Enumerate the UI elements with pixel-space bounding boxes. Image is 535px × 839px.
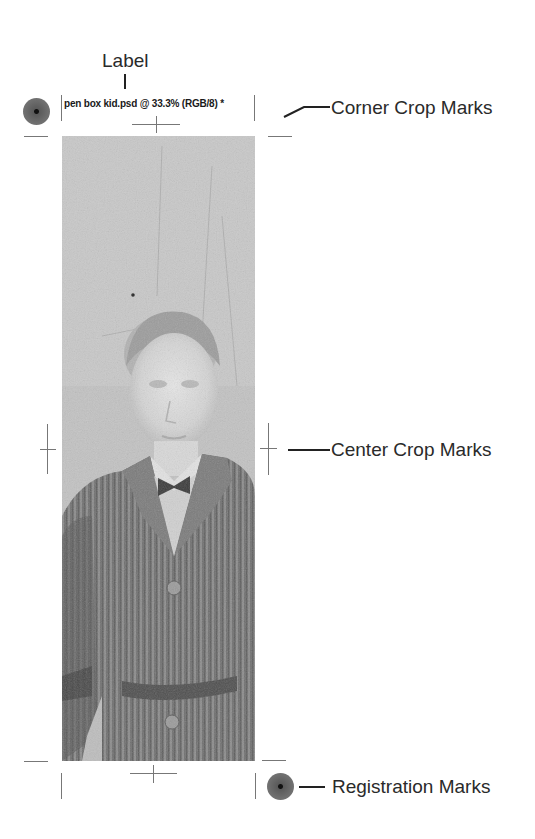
center-crop-mark-bottom-vertical bbox=[153, 765, 154, 783]
center-crop-mark-left-horizontal bbox=[40, 449, 56, 450]
registration-callout-text: Registration Marks bbox=[332, 777, 490, 796]
center-crop-callout-text: Center Crop Marks bbox=[331, 440, 492, 459]
label-callout-text: Label bbox=[102, 51, 149, 70]
registration-mark-bottom-right bbox=[267, 773, 294, 800]
center-crop-leader-line bbox=[288, 449, 330, 451]
document-label: pen box kid.psd @ 33.3% (RGB/8) * bbox=[64, 99, 224, 109]
corner-crop-mark-bottom-left-horizontal bbox=[24, 761, 48, 762]
corner-crop-mark-top-right-vertical bbox=[254, 95, 255, 121]
corner-crop-mark-top-right-horizontal bbox=[268, 136, 292, 137]
center-crop-mark-right-horizontal bbox=[260, 448, 277, 449]
corner-crop-callout-text: Corner Crop Marks bbox=[331, 98, 493, 117]
corner-crop-mark-top-left-horizontal bbox=[24, 136, 48, 137]
registration-leader-line bbox=[299, 786, 325, 788]
label-leader-line bbox=[124, 74, 126, 89]
corner-crop-mark-top-left-vertical bbox=[61, 95, 62, 121]
corner-crop-mark-bottom-left-vertical bbox=[61, 773, 62, 799]
corner-crop-mark-bottom-right-horizontal bbox=[262, 760, 286, 761]
corner-crop-mark-bottom-right-vertical bbox=[255, 773, 256, 799]
boy-portrait-illustration bbox=[62, 136, 255, 761]
registration-mark-top-left bbox=[23, 98, 50, 125]
center-crop-mark-top-vertical bbox=[156, 116, 157, 133]
photo-image bbox=[62, 136, 255, 761]
center-crop-mark-right-vertical bbox=[268, 423, 269, 475]
